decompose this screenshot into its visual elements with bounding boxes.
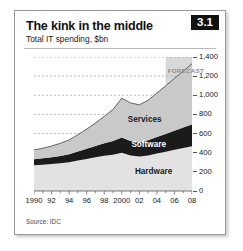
y-axis-label: 400	[199, 148, 212, 157]
y-axis-tick	[193, 133, 197, 134]
y-axis-label: 1,400	[199, 52, 218, 61]
y-axis-tick	[193, 171, 197, 172]
chart-subtitle: Total IT spending, $bn	[26, 34, 108, 44]
y-axis-label: 1,000	[199, 90, 218, 99]
y-axis-tick	[193, 114, 197, 115]
figure-number-badge: 3.1	[191, 15, 219, 30]
y-axis-label: 200	[199, 167, 212, 176]
y-axis-label: 0	[199, 186, 203, 195]
y-axis-tick	[193, 76, 197, 77]
y-axis-label: 600	[199, 129, 212, 138]
y-axis-tick	[193, 152, 197, 153]
chart-title: The kink in the middle	[26, 19, 153, 33]
header-divider	[24, 48, 216, 49]
forecast-label: FORECAST	[168, 67, 204, 74]
x-axis-label: 08	[181, 196, 203, 205]
y-axis-tick	[193, 57, 197, 58]
chart-figure: The kink in the middle Total IT spending…	[14, 10, 226, 235]
y-axis-tick	[193, 95, 197, 96]
band-label-services: Services	[128, 115, 162, 124]
band-label-hardware: Hardware	[135, 167, 172, 176]
y-axis-tick	[193, 191, 197, 192]
y-axis-label: 800	[199, 109, 212, 118]
band-label-software: Software	[131, 140, 166, 149]
chart-source: Source: IDC	[26, 218, 61, 225]
chart-svg	[34, 57, 192, 201]
